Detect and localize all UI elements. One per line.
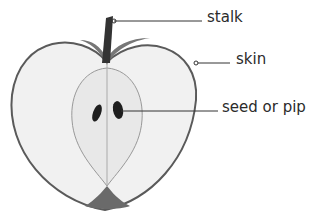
label-stalk: stalk bbox=[207, 10, 243, 25]
apple-diagram: stalk skin seed or pip bbox=[0, 0, 320, 219]
label-seed: seed or pip bbox=[222, 100, 306, 115]
label-skin: skin bbox=[236, 52, 266, 67]
